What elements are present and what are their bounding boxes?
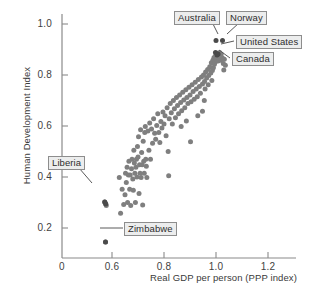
data-point (136, 155, 141, 160)
x-tick-label-1-2: 1.2 (255, 261, 281, 272)
data-point (129, 166, 134, 171)
data-point (133, 200, 138, 205)
y-tick-label-0-2: 0.2 (26, 222, 52, 233)
x-axis-title: Real GDP per person (PPP index) (150, 272, 297, 283)
x-axis-ticks (112, 252, 268, 258)
data-point (144, 175, 149, 180)
data-point (198, 91, 203, 96)
y-axis-ticks (62, 24, 68, 228)
data-point (156, 130, 161, 135)
data-point (182, 105, 187, 110)
data-point (137, 191, 142, 196)
data-point (142, 171, 147, 176)
data-point (140, 203, 145, 208)
data-point (139, 150, 144, 155)
data-point (124, 180, 129, 185)
callout-zimbabwe: Zimbabwe (124, 222, 177, 236)
data-point (139, 175, 144, 180)
data-point (155, 111, 160, 116)
data-point (200, 109, 205, 114)
data-point (188, 139, 193, 144)
data-point (221, 67, 226, 72)
callout-canada: Canada (232, 52, 274, 66)
callout-australia: Australia (174, 11, 220, 25)
data-point (153, 137, 158, 142)
data-point (162, 121, 167, 126)
data-point (170, 121, 175, 126)
data-point (152, 131, 157, 136)
data-point (125, 165, 130, 170)
data-point (117, 175, 122, 180)
highlighted-data-point (216, 52, 221, 57)
data-point (136, 134, 141, 139)
data-point (203, 87, 208, 92)
data-point (166, 149, 171, 154)
data-point (169, 110, 174, 115)
callout-united-states: United States (236, 35, 302, 49)
data-point (150, 141, 155, 146)
data-point (173, 115, 178, 120)
data-point (147, 120, 152, 125)
callout-liberia: Liberia (48, 156, 85, 170)
x-tick-label-0: 0 (49, 261, 75, 272)
data-point (166, 173, 171, 178)
data-point (143, 124, 148, 129)
x-tick-label-0-6: 0.6 (99, 261, 125, 272)
data-point (149, 127, 154, 132)
data-point (128, 203, 133, 208)
data-point (184, 118, 189, 123)
highlighted-data-point (214, 38, 219, 43)
data-point (157, 140, 162, 145)
highlighted-data-point (220, 38, 225, 43)
callout-norway: Norway (226, 11, 267, 25)
y-axis-title: Human Development Index (21, 56, 32, 196)
data-point (144, 164, 149, 169)
data-point (163, 113, 168, 118)
data-point (131, 148, 136, 153)
data-point (143, 157, 148, 162)
highlighted-data-point (103, 202, 108, 207)
data-point (135, 144, 140, 149)
data-point (202, 98, 207, 103)
data-point (165, 105, 170, 110)
data-point (118, 211, 123, 216)
data-point (209, 78, 214, 83)
data-point (154, 123, 159, 128)
axis-lines (62, 14, 296, 258)
data-point (206, 82, 211, 87)
data-point (151, 116, 156, 121)
data-point (131, 188, 136, 193)
data-point (120, 187, 125, 192)
data-point (148, 157, 153, 162)
y-tick-label-1-0: 1.0 (26, 18, 52, 29)
data-point (141, 139, 146, 144)
highlighted-data-point (103, 240, 108, 245)
x-tick-label-0-8: 0.8 (151, 261, 177, 272)
data-point (167, 116, 172, 121)
scatter-chart-figure: 1.0 0.8 0.6 0.4 0.2 0 0.6 0.8 1.0 1.2 Hu… (0, 0, 311, 295)
data-point (164, 133, 169, 138)
x-tick-label-1-0: 1.0 (203, 261, 229, 272)
data-point (123, 192, 128, 197)
data-point-group (102, 50, 228, 244)
data-point (146, 148, 151, 153)
data-point (138, 127, 143, 132)
data-point (179, 124, 184, 129)
data-point (222, 57, 227, 62)
data-point (195, 113, 200, 118)
data-point (223, 63, 228, 68)
